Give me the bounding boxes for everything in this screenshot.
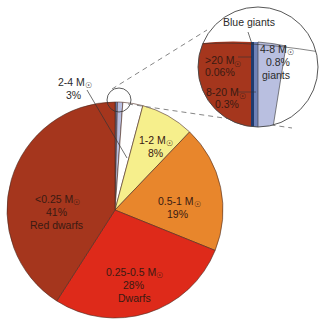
inset-title: Blue giants [223, 16, 275, 28]
label-1-2-pct: 8% [148, 147, 163, 159]
label-4-8-pct: 0.8% [266, 56, 290, 68]
label-4-8-name: giants [262, 69, 290, 81]
label-2-4-mass: 2-4 M☉ [58, 76, 92, 90]
dashed-connector-top [112, 30, 207, 89]
label-lt025-pct: 41% [46, 206, 67, 218]
label-025-05-name: Dwarfs [118, 292, 151, 304]
label-05-1-pct: 19% [167, 208, 188, 220]
label-lt025-name: Red dwarfs [30, 219, 83, 231]
label-2-4-pct: 3% [66, 89, 81, 101]
label-8-20-pct: 0.3% [215, 98, 239, 110]
label-025-05-pct: 28% [123, 279, 144, 291]
label-gt20-pct: 0.06% [205, 66, 235, 78]
stellar-mass-pie-chart: Blue giants >20 M☉ 0.06% 8-20 M☉ 0.3% 4-… [0, 0, 326, 335]
inset-slice-8-20 [254, 42, 258, 140]
label-025-05-mass: 0.25-0.5 M☉ [106, 266, 163, 280]
pie-slices [7, 102, 223, 318]
